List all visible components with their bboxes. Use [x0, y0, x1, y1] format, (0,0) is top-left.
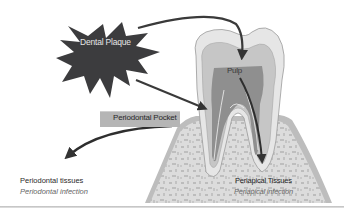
dental-plaque-label: Dental Plaque — [80, 37, 131, 47]
periodontal-tissues-label: Periodontal tissues — [20, 176, 83, 185]
arrow-pocket-to-periodontal — [68, 126, 172, 156]
periodontal-infection-label: Periodontal infection — [20, 187, 88, 196]
periapical-infection-label: Periapical infection — [234, 187, 293, 196]
periapical-tissues-label: Periapical Tissues — [235, 176, 292, 185]
arrow-plaque-to-pocket — [136, 80, 204, 108]
diagram-canvas: Dental Plaque Pulp Periodontal Pocket Pe… — [0, 0, 344, 215]
starburst-icon — [56, 22, 160, 98]
periodontal-pocket-label: Periodontal Pocket — [113, 113, 177, 122]
bottom-divider — [0, 206, 344, 208]
pulp-label: Pulp — [227, 66, 242, 75]
